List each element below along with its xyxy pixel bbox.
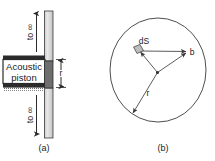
panel-a-caption: (a) xyxy=(39,143,50,153)
center-point xyxy=(156,71,159,74)
panel-a-group: to ∞ to ∞ Acoustic piston r (a) xyxy=(3,11,66,153)
piston-label-line2: piston xyxy=(11,72,36,83)
panel-b-radius-label: r xyxy=(147,88,150,98)
panel-b-group: r dS b (b) xyxy=(110,18,206,153)
center-to-b-line xyxy=(158,53,187,73)
panel-a-radius-label: r xyxy=(60,68,63,78)
panel-b-caption: (b) xyxy=(158,143,169,153)
baffle-hatching xyxy=(3,87,45,90)
dS-to-b-line xyxy=(141,51,186,52)
acoustic-piston-figure: to ∞ to ∞ Acoustic piston r (a) r xyxy=(0,0,215,161)
sphere-circle xyxy=(110,18,206,122)
tube-lower-wall xyxy=(45,88,54,138)
figure-container: to ∞ to ∞ Acoustic piston r (a) r xyxy=(0,0,215,161)
dS-label: dS xyxy=(139,36,150,46)
radius-line xyxy=(133,73,158,114)
tube-bottom-label: to ∞ xyxy=(25,107,35,123)
point-b-label: b xyxy=(190,47,195,57)
piston-duct-bottom-rail xyxy=(3,83,45,87)
piston-duct-top-rail xyxy=(3,56,45,60)
piston-label-line1: Acoustic xyxy=(6,61,42,72)
piston-throat xyxy=(45,61,54,88)
tube-upper-wall xyxy=(45,11,54,61)
center-to-dS-line xyxy=(141,52,158,73)
tube-top-label: to ∞ xyxy=(25,24,35,40)
